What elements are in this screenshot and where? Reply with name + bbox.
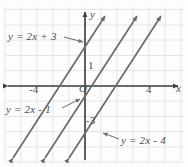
x-axis-tick-label-four: 4 bbox=[146, 84, 152, 95]
y-axis-label: y bbox=[90, 9, 95, 20]
equation-label-bottom: y = 2x - 4 bbox=[121, 135, 166, 146]
coordinate-graph-figure: y = 2x + 3 y = 2x - 1 y = 2x - 4 -4 4 1 … bbox=[0, 0, 188, 167]
equation-label-middle: y = 2x - 1 bbox=[6, 104, 51, 115]
y-axis-tick-label-one: 1 bbox=[88, 60, 94, 71]
x-axis-label: x bbox=[176, 83, 181, 94]
equation-label-top: y = 2x + 3 bbox=[8, 31, 57, 42]
origin-label: O bbox=[79, 83, 87, 94]
x-axis-tick-label-negative-four: -4 bbox=[29, 84, 38, 95]
y-axis-tick-label-negative-three: -3 bbox=[86, 115, 95, 126]
